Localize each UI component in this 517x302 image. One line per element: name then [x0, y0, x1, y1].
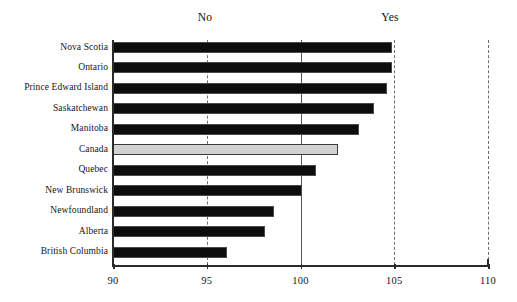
bar-canada: [113, 144, 338, 155]
gridline-110: [488, 40, 489, 265]
yes-annotation: Yes: [381, 11, 398, 23]
category-label-canada: Canada: [0, 144, 108, 154]
tick-95: [207, 264, 209, 269]
plot-area: 9095100105110: [113, 40, 488, 265]
category-label-alberta: Alberta: [0, 226, 108, 236]
tick-100: [301, 264, 303, 269]
bar-alberta: [113, 226, 265, 237]
bar-chart: No Yes Nova ScotiaOntarioPrince Edward I…: [0, 0, 517, 302]
bar-nova-scotia: [113, 42, 392, 53]
category-label-saskatchewan: Saskatchewan: [0, 103, 108, 113]
category-axis-line: [112, 40, 114, 265]
category-label-new-brunswick: New Brunswick: [0, 185, 108, 195]
no-annotation: No: [198, 11, 212, 23]
tick-label-95: 95: [201, 275, 212, 286]
tick-90: [113, 264, 115, 269]
bar-newfoundland: [113, 206, 274, 217]
tick-label-100: 100: [292, 275, 308, 286]
category-label-nova-scotia: Nova Scotia: [0, 42, 108, 52]
category-label-ontario: Ontario: [0, 62, 108, 72]
bar-prince-edward-island: [113, 83, 387, 94]
category-label-prince-edward-island: Prince Edward Island: [0, 82, 108, 92]
bar-manitoba: [113, 124, 359, 135]
category-label-manitoba: Manitoba: [0, 123, 108, 133]
bar-british-columbia: [113, 247, 227, 258]
bar-saskatchewan: [113, 103, 374, 114]
category-label-newfoundland: Newfoundland: [0, 205, 108, 215]
gridline-105: [394, 40, 395, 265]
tick-110: [488, 264, 490, 269]
bar-quebec: [113, 165, 316, 176]
tick-label-90: 90: [108, 275, 119, 286]
tick-label-110: 110: [480, 275, 496, 286]
category-label-british-columbia: British Columbia: [0, 246, 108, 256]
category-label-quebec: Quebec: [0, 164, 108, 174]
bar-new-brunswick: [113, 185, 302, 196]
bar-ontario: [113, 62, 392, 73]
tick-105: [394, 264, 396, 269]
tick-label-105: 105: [386, 275, 402, 286]
